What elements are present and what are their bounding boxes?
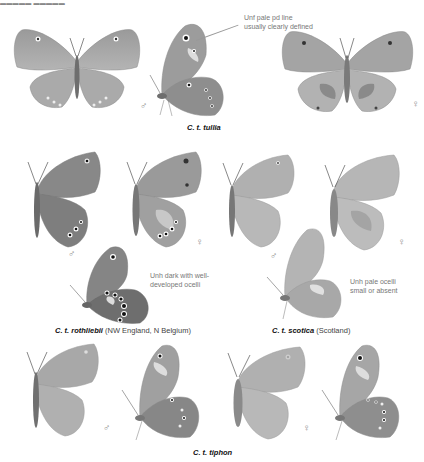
male-symbol: ♂: [103, 422, 111, 433]
butterfly-scotica-male-underside: [265, 225, 345, 320]
caption-region: (NW England, N Belgium): [105, 326, 191, 335]
butterfly-tullia-female-upperside: [280, 24, 415, 116]
caption-species: C. t. tullia: [187, 123, 221, 132]
caption-rothliebii: C. t. rothliebii (NW England, N Belgium): [55, 326, 191, 335]
annotation-rothliebii: Unh dark with well-developed ocelli: [150, 272, 220, 289]
butterfly-rothliebii-female-upperside: [118, 150, 203, 250]
butterfly-tiphon-male-upperside: [20, 342, 100, 437]
clipped-header-text: ▬▬▬▬▬ ▬▬▬▬▬: [0, 0, 65, 6]
butterfly-tiphon-female-underside: [320, 342, 405, 442]
female-symbol: ♀: [196, 236, 204, 247]
butterfly-rothliebii-male-underside: [75, 245, 155, 325]
caption-species: C. t. rothliebii: [55, 326, 103, 335]
caption-tiphon: C. t. tiphon: [193, 448, 232, 457]
butterfly-tiphon-male-underside: [120, 342, 205, 442]
male-symbol: ♂: [140, 100, 148, 111]
female-symbol: ♀: [303, 422, 311, 433]
butterfly-tullia-male-underside: [150, 20, 230, 120]
butterfly-rothliebii-male-upperside: [20, 150, 105, 250]
butterfly-tullia-male-upperside: [12, 22, 142, 112]
caption-species: C. t. tiphon: [193, 448, 232, 457]
caption-species: C. t. scotica: [272, 326, 314, 335]
annotation-scotica: Unh pale ocelli small or absent: [350, 278, 410, 295]
female-symbol: ♀: [412, 98, 420, 109]
butterfly-tiphon-female-upperside: [222, 345, 307, 440]
caption-region: (Scotland): [316, 326, 350, 335]
caption-tullia: C. t. tullia: [187, 123, 221, 132]
female-symbol: ♀: [398, 236, 406, 247]
caption-scotica: C. t. scotica (Scotland): [272, 326, 350, 335]
